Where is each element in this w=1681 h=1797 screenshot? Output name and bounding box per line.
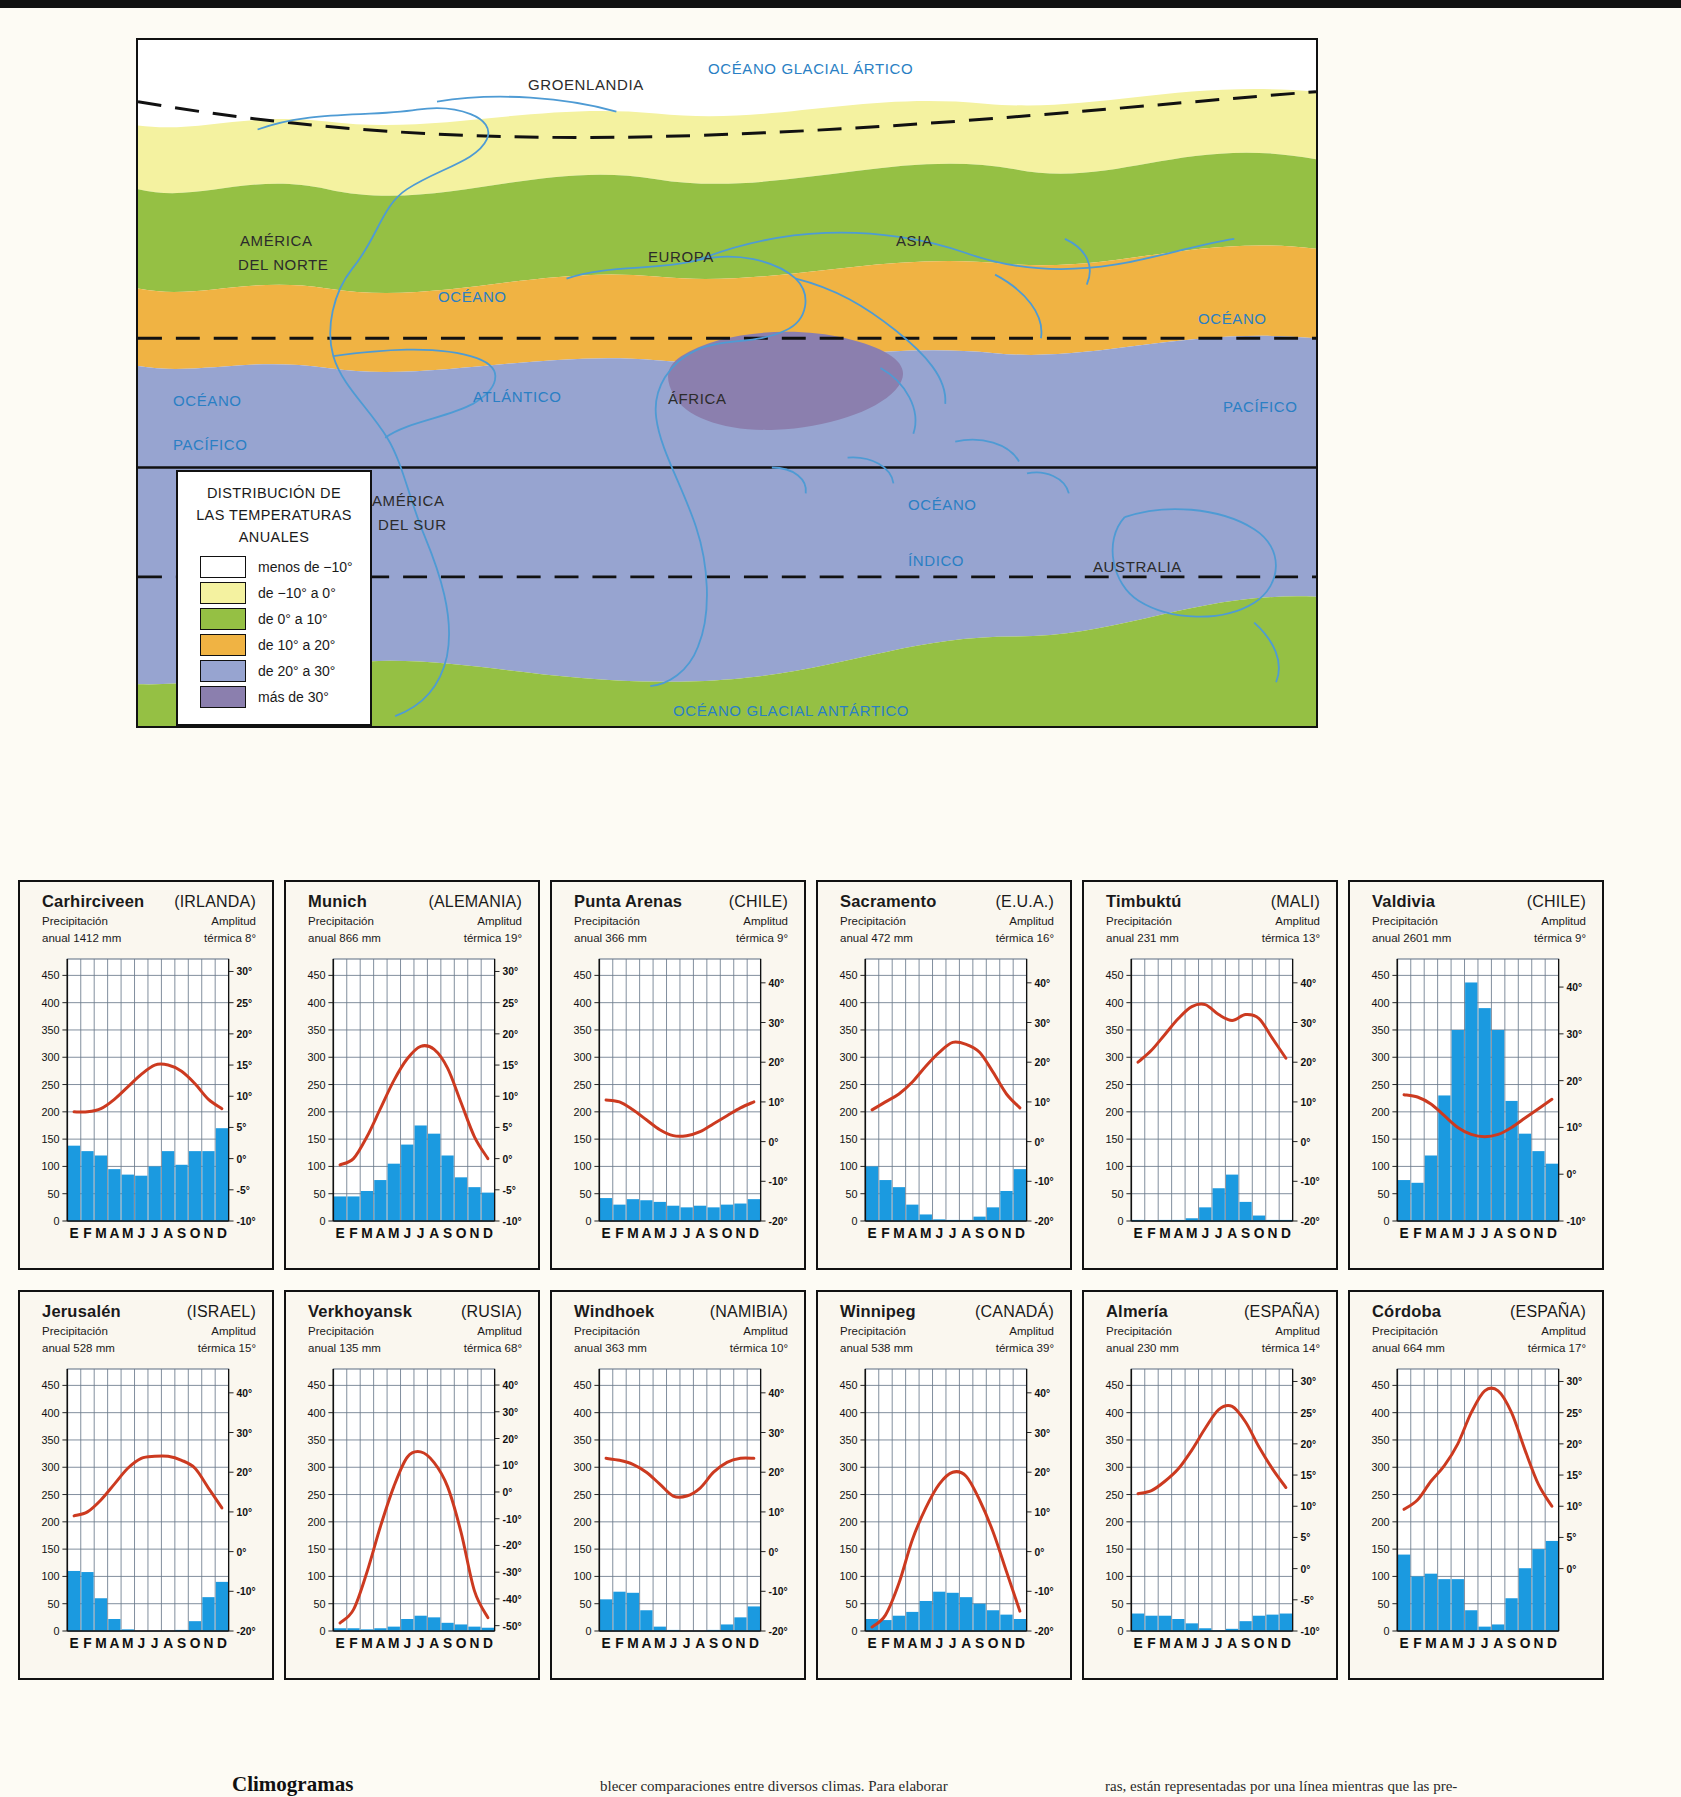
month-tick-label: E (1399, 1225, 1408, 1241)
legend-swatch-1 (200, 582, 246, 604)
amplitude-value: térmica 19° (464, 931, 522, 945)
legend-label-4: de 20° a 30° (258, 663, 335, 679)
svg-text:200: 200 (41, 1106, 59, 1118)
month-tick-label: M (920, 1225, 931, 1241)
svg-text:250: 250 (1371, 1488, 1389, 1500)
svg-text:-10°: -10° (502, 1216, 521, 1227)
legend-swatch-3 (200, 634, 246, 656)
svg-text:-20°: -20° (236, 1626, 255, 1637)
svg-text:50: 50 (47, 1188, 59, 1200)
precip-value: anual 866 mm (308, 931, 381, 945)
month-tick-label: D (1015, 1225, 1025, 1241)
legend-swatch-5 (200, 686, 246, 708)
climogram-card: Carhirciveen(IRLANDA)PrecipitaciónAmplit… (18, 880, 274, 1270)
month-tick-label: A (1173, 1635, 1183, 1651)
country-name: (CHILE) (1527, 893, 1586, 911)
month-tick-label: A (163, 1225, 173, 1241)
month-tick-label: N (469, 1635, 479, 1651)
country-name: (IRLANDA) (174, 893, 256, 911)
svg-text:50: 50 (1111, 1598, 1123, 1610)
month-tick-label: J (949, 1225, 957, 1241)
month-tick-label: A (961, 1225, 971, 1241)
climogram-plot: 050100150200250300350400450-50°-40°-30°-… (292, 1363, 532, 1663)
svg-text:50: 50 (313, 1188, 325, 1200)
month-tick-label: N (735, 1635, 745, 1651)
svg-text:250: 250 (41, 1078, 59, 1090)
svg-text:20°: 20° (1300, 1439, 1316, 1450)
map-label-12: PACÍFICO (173, 436, 248, 453)
svg-text:30°: 30° (1300, 1017, 1316, 1028)
month-tick-label: J (1201, 1635, 1209, 1651)
svg-text:200: 200 (307, 1106, 325, 1118)
city-name: Sacramento (840, 892, 936, 911)
precip-value: anual 472 mm (840, 931, 913, 945)
month-tick-label: D (749, 1635, 759, 1651)
svg-text:300: 300 (839, 1461, 857, 1473)
svg-text:250: 250 (1105, 1078, 1123, 1090)
svg-text:0: 0 (1383, 1625, 1389, 1637)
svg-text:10°: 10° (1034, 1507, 1050, 1518)
svg-text:30°: 30° (236, 1427, 252, 1438)
precip-label-1: Precipitación (308, 1324, 374, 1338)
svg-text:30°: 30° (1300, 1376, 1316, 1387)
month-tick-label: O (988, 1225, 999, 1241)
city-name: Valdivia (1372, 892, 1435, 911)
month-tick-label: E (601, 1225, 610, 1241)
month-tick-label: O (1520, 1635, 1531, 1651)
month-tick-label: M (1186, 1635, 1197, 1651)
country-name: (ESPAÑA) (1510, 1303, 1586, 1321)
amplitude-label-1: Amplitud (1275, 914, 1320, 928)
city-name: Jerusalén (42, 1302, 121, 1321)
svg-text:20°: 20° (1566, 1439, 1582, 1450)
svg-text:450: 450 (1105, 1379, 1123, 1391)
svg-text:300: 300 (573, 1461, 591, 1473)
map-label-13: AMÉRICA (372, 492, 445, 509)
svg-text:250: 250 (839, 1078, 857, 1090)
month-tick-label: A (695, 1225, 705, 1241)
map-label-18: OCÉANO GLACIAL ANTÁRTICO (673, 702, 909, 719)
month-tick-label: D (1015, 1635, 1025, 1651)
svg-text:10°: 10° (1300, 1097, 1316, 1108)
svg-text:25°: 25° (1300, 1408, 1316, 1419)
svg-text:200: 200 (573, 1106, 591, 1118)
month-tick-label: M (893, 1635, 904, 1651)
precip-value: anual 231 mm (1106, 931, 1179, 945)
climogram-row: Carhirciveen(IRLANDA)PrecipitaciónAmplit… (18, 880, 1666, 1270)
climogram-card: Punta Arenas(CHILE)PrecipitaciónAmplitud… (550, 880, 806, 1270)
amplitude-value: térmica 10° (730, 1341, 788, 1355)
climogram-card: Windhoek(NAMIBIA)PrecipitaciónAmplitudan… (550, 1290, 806, 1680)
precip-label-1: Precipitación (308, 914, 374, 928)
climogram-card: Almería(ESPAÑA)PrecipitaciónAmplitudanua… (1082, 1290, 1338, 1680)
amplitude-label-1: Amplitud (1541, 914, 1586, 928)
svg-text:40°: 40° (1034, 978, 1050, 989)
precip-label-1: Precipitación (574, 1324, 640, 1338)
precip-value: anual 230 mm (1106, 1341, 1179, 1355)
svg-text:40°: 40° (502, 1380, 518, 1391)
climogram-row: Jerusalén(ISRAEL)PrecipitaciónAmplitudan… (18, 1290, 1666, 1680)
svg-text:-10°: -10° (1034, 1176, 1053, 1187)
month-tick-label: A (163, 1635, 173, 1651)
map-legend: DISTRIBUCIÓN DE LAS TEMPERATURAS ANUALES… (176, 470, 372, 726)
map-label-8: ATLÁNTICO (473, 388, 561, 405)
month-tick-label: F (349, 1225, 357, 1241)
svg-text:250: 250 (307, 1078, 325, 1090)
month-tick-label: S (975, 1225, 984, 1241)
month-tick-label: A (1493, 1225, 1503, 1241)
svg-text:-10°: -10° (1300, 1626, 1319, 1637)
svg-text:400: 400 (1371, 997, 1389, 1009)
svg-text:-10°: -10° (502, 1514, 521, 1525)
month-tick-label: M (1425, 1225, 1436, 1241)
month-tick-label: A (1493, 1635, 1503, 1651)
svg-text:300: 300 (1371, 1051, 1389, 1063)
precip-label-1: Precipitación (1106, 1324, 1172, 1338)
amplitude-value: térmica 68° (464, 1341, 522, 1355)
month-tick-label: A (109, 1635, 119, 1651)
month-tick-label: F (615, 1225, 623, 1241)
svg-text:20°: 20° (236, 1467, 252, 1478)
svg-text:200: 200 (1371, 1106, 1389, 1118)
svg-text:250: 250 (1105, 1488, 1123, 1500)
month-tick-label: J (935, 1225, 943, 1241)
svg-text:10°: 10° (502, 1091, 518, 1102)
svg-text:20°: 20° (768, 1467, 784, 1478)
svg-text:0°: 0° (502, 1487, 512, 1498)
